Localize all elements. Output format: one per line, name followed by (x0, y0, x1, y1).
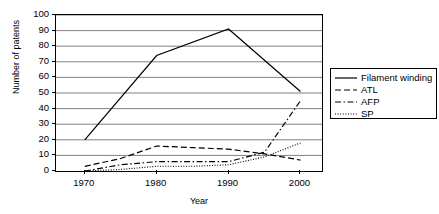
y-axis-title: Number of patents (11, 0, 21, 117)
legend-item: AFP (335, 96, 436, 108)
x-tick-mark (84, 170, 85, 174)
legend-swatch-atl-icon (335, 85, 357, 95)
legend-label: Filament winding (361, 73, 432, 83)
legend-swatch-filament-winding-icon (335, 73, 357, 83)
x-tick-label: 2000 (279, 177, 319, 188)
y-tick-label: 60 (21, 71, 49, 80)
y-tick-label: 70 (21, 56, 49, 65)
legend-label: ATL (361, 85, 378, 95)
x-tick-label: 1970 (64, 177, 104, 188)
x-tick-mark (228, 170, 229, 174)
y-tick-label: 30 (21, 118, 49, 127)
y-tick-label: 40 (21, 103, 49, 112)
x-tick-label: 1990 (208, 177, 248, 188)
legend-item: Filament winding (335, 72, 436, 84)
chart-legend: Filament windingATLAFPSP (330, 68, 437, 119)
series-line-afp (85, 101, 301, 171)
x-tick-mark (156, 170, 157, 174)
legend-swatch-sp-icon (335, 109, 357, 119)
y-tick-label: 80 (21, 40, 49, 49)
chart-figure: Number of patents 1009080706050403020100… (0, 0, 439, 214)
chart-canvas (56, 15, 322, 171)
series-line-filament-winding (85, 29, 301, 140)
legend-item: ATL (335, 84, 436, 96)
y-tick-label: 0 (21, 165, 49, 174)
legend-label: AFP (361, 97, 379, 107)
y-tick-label: 100 (21, 9, 49, 18)
legend-swatch-afp-icon (335, 97, 357, 107)
legend-label: SP (361, 109, 374, 119)
legend-item: SP (335, 108, 436, 120)
x-axis-title: Year (169, 196, 229, 206)
y-tick-label: 10 (21, 149, 49, 158)
series-line-atl (85, 146, 301, 166)
y-tick-label: 20 (21, 134, 49, 143)
plot-area (55, 14, 323, 172)
y-tick-label: 50 (21, 87, 49, 96)
x-tick-label: 1980 (136, 177, 176, 188)
x-tick-mark (299, 170, 300, 174)
y-tick-label: 90 (21, 25, 49, 34)
